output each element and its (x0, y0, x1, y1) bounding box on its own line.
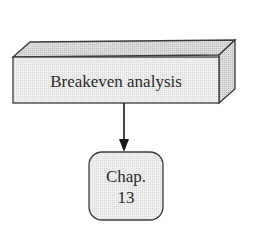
box-label: Breakeven analysis (50, 72, 182, 91)
chapter-label-line1: Chap. (106, 167, 146, 186)
arrowhead-icon (119, 139, 129, 152)
chapter-box: Chap. 13 (89, 152, 163, 220)
chapter-label-line2: 13 (118, 188, 135, 207)
down-arrow (119, 103, 129, 152)
box-top-face (13, 40, 235, 57)
diagram-canvas: Breakeven analysis Chap. 13 (0, 0, 256, 226)
chapter-rounded-box (89, 152, 163, 220)
breakeven-analysis-box: Breakeven analysis (13, 40, 235, 103)
